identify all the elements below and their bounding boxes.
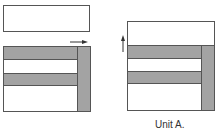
right-arrow-icon <box>68 39 90 45</box>
up-arrow-icon <box>120 34 126 54</box>
left-horizontal-bar-1 <box>3 46 78 60</box>
left-vertical-bar <box>77 46 91 112</box>
left-horizontal-bar-2 <box>3 73 78 86</box>
right-vertical-bar <box>201 45 215 111</box>
figure-caption: Unit A. <box>155 119 184 130</box>
right-horizontal-bar-2 <box>127 71 202 84</box>
left-top-rectangle <box>3 5 90 32</box>
right-horizontal-bar-1 <box>127 45 202 59</box>
